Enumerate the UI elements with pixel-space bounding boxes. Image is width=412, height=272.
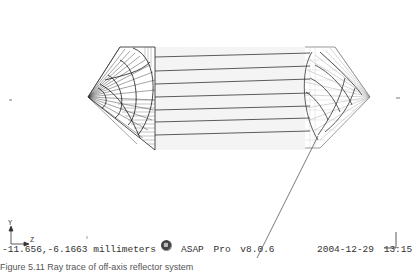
app-edition: Pro [214,244,231,255]
left-reflector-wireframe [88,47,155,150]
app-name: ASAP [181,244,204,255]
figure-caption: Figure 5.11 Ray trace of off-axis reflec… [0,263,193,272]
date-value: 2004-12-29 [317,244,374,255]
app-version: v8.0.6 [240,244,274,255]
app-info: ASAP Pro v8.0.6 [181,245,275,255]
coordinates-value: -11.656,-6.1663 [2,244,88,255]
units-label: millimeters [93,244,156,255]
off-axis-ray [257,136,318,258]
axis-triad-icon [9,226,29,246]
timestamp: 2004-12-29 13:15 [317,245,412,255]
cursor-coordinates: -11.656,-6.1663 millimeters [2,245,156,255]
time-value: 13:15 [384,244,412,255]
right-reflector-wireframe [304,47,370,148]
axis-y-label: Y [8,220,12,227]
asap-logo-icon [161,240,172,251]
axis-z-label: Z [30,237,34,244]
